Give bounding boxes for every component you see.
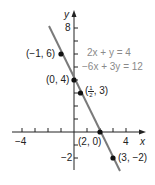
point-label-half-3: (12, 3) [85,85,108,98]
x-axis-arrow-icon [139,130,146,135]
tick-label-4: 4 [123,137,129,147]
x-axis-label: x [140,137,145,147]
point-neg1-6 [58,51,63,56]
point-0-4 [71,77,76,82]
equation-label-1: 2x + y = 4 [87,48,131,58]
equation-label-2: −6x + 3y = 12 [82,62,143,72]
point-half-3 [78,90,83,95]
point-label-neg1-6: (−1, 6) [26,49,55,59]
x-axis [12,128,146,135]
tick-label-8: 8 [65,23,71,33]
point-label-half-3-close: , 3) [94,85,108,96]
y-axis-label: y [64,10,69,20]
y-axis-arrow-icon [72,10,77,17]
point-label-2-0: (2, 0) [78,137,101,147]
tick-label-neg4: −4 [15,137,26,147]
point-label-0-4: (0, 4) [46,75,69,85]
point-2-0 [97,129,102,134]
point-label-3-neg2: (3, −2) [118,153,147,163]
point-3-neg2 [110,155,115,160]
tick-label-neg2: −2 [61,153,72,163]
